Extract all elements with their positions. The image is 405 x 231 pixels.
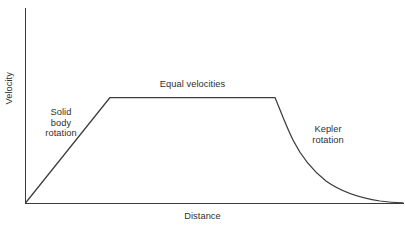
x-axis-label: Distance (0, 211, 405, 222)
annotation-kepler-rotation: Kepler rotation (297, 124, 359, 145)
annotation-solid-body-rotation: Solid body rotation (33, 107, 89, 139)
rotation-curve-figure: Velocity Distance Solid body rotation Eq… (0, 0, 405, 231)
y-axis-label: Velocity (4, 58, 15, 118)
annotation-equal-velocities: Equal velocities (110, 79, 275, 90)
